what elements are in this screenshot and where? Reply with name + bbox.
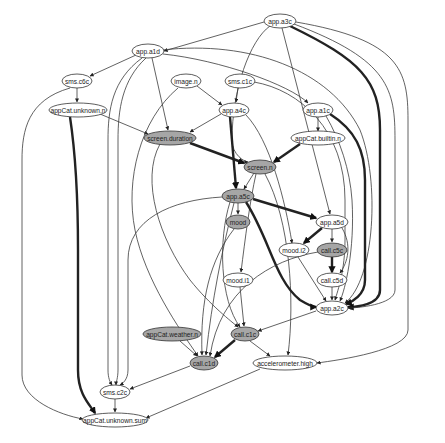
- edge-mood-i1-to-call-c1c: [240, 287, 244, 326]
- node-label: screen.n: [247, 164, 273, 171]
- edge-app-a5d-to-mood-i2: [304, 228, 322, 243]
- node-call-c1d: call.c1d: [190, 356, 218, 370]
- node-app-a1d: app.a1d: [132, 44, 164, 58]
- node-label: call.c5d: [321, 277, 344, 284]
- node-label: app.a1d: [136, 48, 160, 56]
- node-appCat-unknown-n: appCat.unknown.n: [49, 103, 107, 117]
- node-label: app.a4c: [222, 107, 246, 115]
- node-label: app.a5c: [226, 193, 250, 201]
- node-app-a5d: app.a5d: [316, 215, 348, 229]
- edge-call-c1c-to-call-c1d: [215, 340, 235, 357]
- node-appCat-weather-n: appCat.weather.n: [143, 327, 201, 341]
- edge-call-c1c-to-accelerometer-high: [250, 341, 270, 356]
- node-call-c1c: call.c1c: [231, 327, 259, 341]
- edge-app-a4c-to-screen-duration: [190, 114, 221, 132]
- node-sms-c1c: sms.c1c: [225, 74, 255, 88]
- edge-app-a3c-to-screen-n: [232, 26, 270, 162]
- node-call-c5d: call.c5d: [317, 273, 347, 287]
- edge-image-n-to-app-a4c: [197, 86, 222, 105]
- edge-app-a5c-to-app-a5d: [253, 199, 316, 218]
- edge-appCat-unknown-n-to-screen-duration: [100, 114, 148, 134]
- edge-mood-to-call-c1d: [202, 229, 234, 355]
- edge-call-c5c-to-call-c1d: [210, 252, 318, 356]
- node-label: sms.c2c: [103, 389, 128, 396]
- node-label: app.a3c: [268, 18, 292, 26]
- node-label: accelerometer.high: [257, 360, 313, 368]
- node-label: appCat.unknown.n: [51, 107, 106, 115]
- edge-app-a3c-to-app-a5d: [282, 28, 330, 214]
- edge-appCat-weather-n-to-call-c1d: [180, 341, 197, 356]
- edge-call-c1d-to-sms-c2c: [130, 366, 190, 389]
- node-label: call.c5c: [321, 247, 344, 254]
- edge-image-n-to-call-c1d: [132, 88, 198, 356]
- node-app-a4c: app.a4c: [219, 103, 249, 117]
- node-sms-c2c: sms.c2c: [100, 385, 130, 399]
- edge-app-a2c-to-call-c1c: [258, 311, 316, 331]
- node-label: sms.c6c: [65, 78, 90, 85]
- node-accelerometer-high: accelerometer.high: [253, 356, 317, 370]
- node-label: appCat.unknown.sum: [83, 417, 147, 425]
- edge-app-a1d-to-sms-c2c: [116, 58, 146, 385]
- edge-screen-n-to-app-a5c: [244, 173, 254, 189]
- edge-app-a1d-to-screen-duration: [152, 58, 168, 130]
- edge-app-a3c-to-app-a1d: [164, 22, 264, 51]
- node-mood-i1: mood.i1: [223, 273, 253, 287]
- node-label: appCat.builtin.n: [295, 135, 341, 143]
- node-app-a2c: app.a2c: [316, 301, 348, 315]
- edge-app-a4c-to-mood-i2: [246, 115, 292, 243]
- nodes-layer: app.a3capp.a1dsms.c6cimage.nsms.c1cappCa…: [49, 14, 348, 427]
- node-app-a5c: app.a5c: [222, 189, 254, 203]
- node-label: app.a2c: [320, 305, 344, 313]
- node-appCat-unknown-sum: appCat.unknown.sum: [82, 413, 148, 427]
- node-sms-c6c: sms.c6c: [62, 74, 92, 88]
- node-mood: mood: [226, 215, 250, 229]
- node-screen-duration: screen.duration: [144, 131, 196, 145]
- edge-app-a3c-to-app-a2c: [290, 26, 380, 307]
- node-app-a1c: app.a1c: [303, 103, 333, 117]
- node-call-c5c: call.c5c: [317, 243, 347, 257]
- node-label: app.a1c: [306, 107, 330, 115]
- node-label: sms.c1c: [228, 78, 253, 85]
- node-mood-i2: mood.i2: [279, 243, 309, 257]
- edge-appCat-builtin-n-to-screen-n: [274, 144, 300, 162]
- node-label: mood.i1: [226, 277, 250, 284]
- edge-app-a1d-to-sms-c2c: [108, 58, 142, 385]
- node-label: mood.i2: [282, 247, 306, 254]
- edge-appCat-unknown-n-to-appCat-unknown-sum: [70, 117, 95, 413]
- node-label: appCat.weather.n: [146, 331, 198, 339]
- dependency-graph: app.a3capp.a1dsms.c6cimage.nsms.c1cappCa…: [0, 0, 445, 443]
- node-label: call.c1c: [234, 331, 257, 338]
- node-label: screen.duration: [147, 135, 193, 142]
- node-appCat-builtin-n: appCat.builtin.n: [291, 131, 345, 145]
- node-app-a3c: app.a3c: [264, 14, 296, 28]
- node-image-n: image.n: [171, 74, 201, 88]
- node-label: call.c1d: [193, 360, 216, 367]
- node-screen-n: screen.n: [244, 160, 276, 174]
- edge-screen-duration-to-call-c1c: [152, 144, 238, 327]
- node-label: app.a5d: [320, 219, 344, 227]
- node-label: image.n: [174, 78, 198, 86]
- edge-app-a1d-to-sms-c6c: [90, 55, 136, 76]
- node-label: mood: [230, 219, 247, 226]
